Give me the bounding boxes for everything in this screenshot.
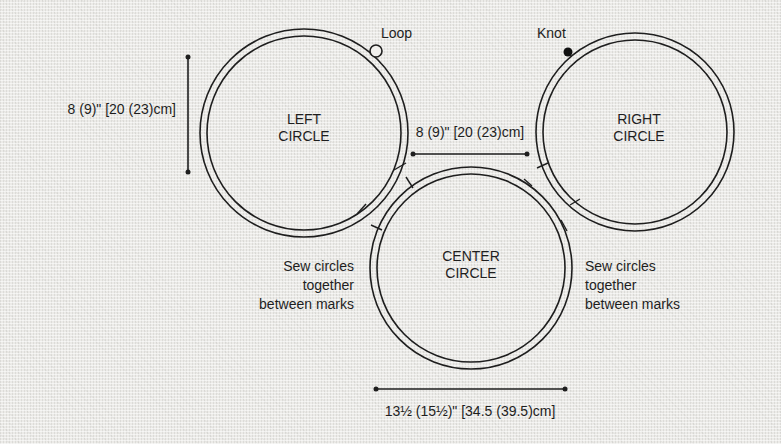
- sew-note-left-line1: Sew circles: [230, 257, 354, 276]
- loop-label: Loop: [381, 25, 412, 42]
- sew-note-left-line3: between marks: [230, 295, 354, 314]
- dimension-left-height-label: 8 (9)" [20 (23)cm]: [40, 101, 176, 118]
- sew-note-right-line2: together: [585, 276, 715, 295]
- left-circle-label-line2: CIRCLE: [264, 128, 344, 145]
- right-circle-label-line1: RIGHT: [599, 111, 679, 128]
- sew-note-left: Sew circles together between marks: [230, 257, 354, 314]
- dimension-center-width-label: 13½ (15½)" [34.5 (39.5)cm]: [360, 403, 580, 420]
- right-circle-label-line2: CIRCLE: [599, 128, 679, 145]
- center-circle-label-line1: CENTER: [431, 248, 511, 265]
- loop-icon: [370, 45, 382, 57]
- knot-label: Knot: [537, 25, 566, 42]
- circles-diagram: [0, 0, 781, 444]
- knot-icon: [564, 48, 573, 57]
- sew-note-right-line3: between marks: [585, 295, 715, 314]
- dimension-endpoints: [186, 55, 568, 392]
- sew-note-right: Sew circles together between marks: [585, 257, 715, 314]
- sew-note-right-line1: Sew circles: [585, 257, 715, 276]
- left-circle-label: LEFT CIRCLE: [264, 111, 344, 145]
- center-circle-label: CENTER CIRCLE: [431, 248, 511, 282]
- diagram-canvas: LEFT CIRCLE CENTER CIRCLE RIGHT CIRCLE L…: [0, 0, 781, 444]
- center-circle-label-line2: CIRCLE: [431, 265, 511, 282]
- right-circle-label: RIGHT CIRCLE: [599, 111, 679, 145]
- dimension-gap-width-label: 8 (9)" [20 (23)cm]: [400, 124, 540, 141]
- left-circle-label-line1: LEFT: [264, 111, 344, 128]
- sew-note-left-line2: together: [230, 276, 354, 295]
